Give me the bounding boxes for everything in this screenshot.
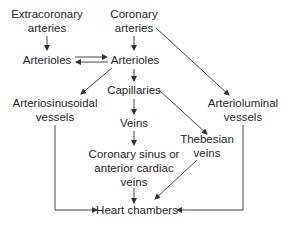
node-arteriosinusoidal-vessels: Arteriosinusoidal vessels xyxy=(12,96,97,124)
node-label-line: vessels xyxy=(12,110,97,124)
node-label-line: Veins xyxy=(120,116,148,130)
node-label-line: Arterioles xyxy=(23,53,72,67)
node-arterioles-right: Arterioles xyxy=(111,53,160,67)
node-arterioles-left: Arterioles xyxy=(23,53,72,67)
node-heart-chambers: Heart chambers xyxy=(96,203,178,217)
node-label-line: Heart chambers xyxy=(96,203,178,217)
node-veins: Veins xyxy=(120,116,148,130)
node-label-line: vessels xyxy=(208,110,278,124)
node-capillaries: Capillaries xyxy=(107,83,161,97)
arrow-capillaries-to-thebesian xyxy=(159,90,207,134)
node-label-line: Coronary xyxy=(110,7,157,21)
node-label-line: Arterioles xyxy=(111,53,160,67)
node-label-line: Arteriosinusoidal xyxy=(12,96,97,110)
node-thebesian-veins: Thebesian veins xyxy=(180,132,234,160)
node-label-line: arteries xyxy=(110,21,157,35)
node-label-line: veins xyxy=(89,175,180,189)
coronary-circulation-diagram: Extracoronary arteries Coronary arteries… xyxy=(0,0,285,228)
node-coronary-sinus: Coronary sinus or anterior cardiac veins xyxy=(89,147,180,189)
node-label-line: veins xyxy=(180,146,234,160)
node-label-line: Arterioluminal xyxy=(208,96,278,110)
node-label-line: Capillaries xyxy=(107,83,161,97)
node-extracoronary-arteries: Extracoronary arteries xyxy=(11,7,83,35)
node-label-line: arteries xyxy=(11,21,83,35)
node-arterioluminal-vessels: Arterioluminal vessels xyxy=(208,96,278,124)
node-coronary-arteries: Coronary arteries xyxy=(110,7,157,35)
node-label-line: Extracoronary xyxy=(11,7,83,21)
node-label-line: anterior cardiac xyxy=(89,161,180,175)
arrow-coronary-to-arterioluminal xyxy=(156,28,229,95)
node-label-line: Thebesian xyxy=(180,132,234,146)
node-label-line: Coronary sinus or xyxy=(89,147,180,161)
